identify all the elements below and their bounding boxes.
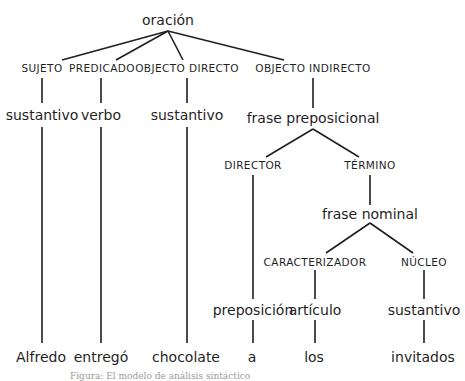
category-caracterizador: artículo [289,303,342,317]
function-predicado: PREDICADO [69,63,135,74]
function-objeto-indirecto: OBJECTO INDIRECTO [255,63,370,74]
leaf-word: chocolate [152,350,220,364]
leaf-word: entregó [74,350,129,364]
leaf-word: Alfredo [16,350,66,364]
category-nucleo: sustantivo [388,303,461,317]
function-termino: TÉRMINO [344,160,395,171]
function-caracterizador: CARACTERIZADOR [264,257,367,268]
function-nucleo: NÚCLEO [401,257,447,268]
leaf-word: los [304,350,324,364]
root-node: oración [142,13,194,27]
category-predicado: verbo [81,108,121,122]
category-objeto-indirecto: frase preposicional [247,111,380,125]
category-termino: frase nominal [322,207,418,221]
function-objeto-directo: OBJECTO DIRECTO [135,63,239,74]
figure-caption: Figura: El modelo de análisis sintáctico [70,371,250,381]
category-objeto-directo: sustantivo [151,108,224,122]
function-sujeto: SUJETO [21,63,62,74]
category-director: preposición [213,303,294,317]
function-director: DIRECTOR [224,160,282,171]
leaf-word: a [248,350,257,364]
category-sujeto: sustantivo [6,108,79,122]
leaf-word: invitados [391,350,455,364]
